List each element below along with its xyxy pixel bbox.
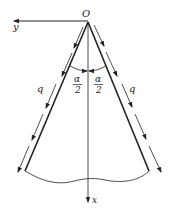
angle-arc-left bbox=[70, 66, 87, 71]
right-shear-load-arrows bbox=[94, 25, 161, 172]
svg-text:2: 2 bbox=[74, 85, 81, 95]
svg-text:α: α bbox=[95, 74, 101, 84]
svg-text:α: α bbox=[74, 74, 80, 84]
right-load-label: q bbox=[129, 83, 135, 94]
wedge-left-edge bbox=[25, 22, 88, 171]
left-load-label: q bbox=[37, 83, 43, 94]
wedge-right-edge bbox=[88, 22, 149, 171]
angle-arc-right bbox=[89, 66, 106, 71]
x-axis-label: x bbox=[92, 195, 97, 205]
half-angle-right-label: α 2 bbox=[94, 74, 103, 95]
left-shear-load-arrows bbox=[18, 27, 83, 172]
half-angle-left-label: α 2 bbox=[73, 74, 82, 95]
wedge-diagram: y O x q q α 2 α 2 bbox=[0, 0, 175, 219]
origin-label: O bbox=[82, 8, 90, 19]
y-axis-label: y bbox=[12, 21, 19, 32]
svg-text:2: 2 bbox=[95, 85, 102, 95]
wedge-bottom-boundary bbox=[25, 171, 149, 183]
